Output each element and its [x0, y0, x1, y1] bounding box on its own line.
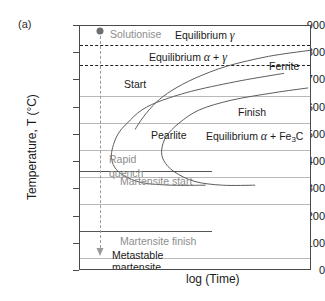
- ferrite-label: Ferrite: [269, 60, 299, 72]
- equilibrium-carbide-label: Equilibrium α + Fe3C: [206, 129, 303, 144]
- finish-label: Finish: [238, 106, 266, 118]
- solutionise-start-marker: [97, 28, 104, 35]
- martensite-start-label: Martensite start: [120, 175, 192, 187]
- start-label: Start: [124, 78, 146, 90]
- quench-arrowhead-icon: [94, 248, 108, 262]
- plot-area: Solutionise Equilibrium γ Equilibrium α …: [79, 25, 311, 270]
- ttt-diagram-figure: (a) Temperature, T (°C) log (Time) 90080…: [0, 0, 325, 301]
- x-axis-title: log (Time): [186, 272, 240, 286]
- martensite-label: martensite: [112, 261, 161, 269]
- rapid-label: Rapid: [109, 153, 136, 165]
- y-axis-title: Temperature, T (°C): [25, 57, 39, 237]
- equilibrium-gamma-label: Equilibrium γ: [175, 28, 235, 43]
- y-tick-mark-0: [73, 270, 79, 271]
- metastable-label: Metastable: [112, 249, 163, 261]
- panel-label: (a): [18, 18, 31, 30]
- pearlite-label: Pearlite: [151, 129, 187, 141]
- rapid-quench-path: [100, 31, 101, 253]
- martensite-finish-label: Martensite finish: [120, 235, 196, 247]
- equilibrium-alpha-gamma-label: Equilibrium α + γ: [149, 50, 227, 65]
- solutionise-label: Solutionise: [110, 28, 161, 40]
